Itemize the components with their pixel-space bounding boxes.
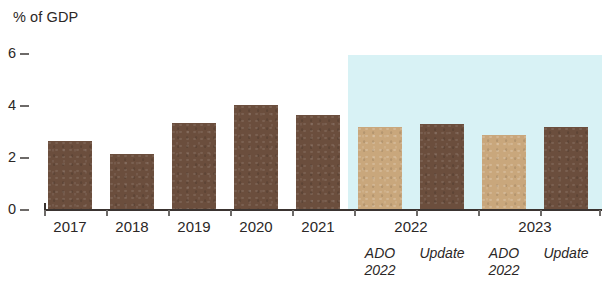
x-tick-5 [354,210,356,216]
sub-label-2023-ado-line2: 2022 [488,262,519,278]
x-tick-0 [44,210,46,216]
bar-2021 [296,115,340,210]
sub-label-2023-ado-line1: ADO [489,245,519,261]
x-tick-7 [478,210,480,216]
y-tick-2: 2 [8,149,29,165]
y-tick-0-label: 0 [8,201,16,217]
bar-2022-ado [358,127,402,210]
bar-2020 [234,105,278,210]
x-label-2023: 2023 [505,218,565,235]
x-label-2022: 2022 [381,218,441,235]
bar-2023-ado [482,135,526,210]
sub-label-2023-ado: ADO 2022 [476,245,532,279]
y-tick-2-dash [20,157,29,159]
sub-label-2022-update-line1: Update [419,245,464,261]
sub-label-2022-ado: ADO 2022 [352,245,408,279]
y-tick-0-dash [20,209,29,211]
y-tick-6: 6 [8,45,29,61]
x-tick-9 [599,210,601,216]
bar-2018 [110,154,154,210]
x-label-2019: 2019 [164,218,224,235]
x-label-2020: 2020 [226,218,286,235]
bar-2017 [48,141,92,210]
x-label-2017: 2017 [40,218,100,235]
bar-2022-update [420,124,464,210]
x-tick-3 [230,210,232,216]
y-axis-title: % of GDP [13,9,78,25]
x-tick-8 [540,210,542,216]
sub-label-2023-update-line1: Update [543,245,588,261]
sub-label-2023-update: Update [536,245,596,262]
y-tick-4: 4 [8,97,29,113]
plot-area: % of GDP 6 4 2 0 [0,0,602,284]
y-tick-4-label: 4 [8,97,16,113]
bar-2023-update [544,127,588,210]
y-tick-6-dash [20,53,29,55]
x-label-2018: 2018 [102,218,162,235]
x-tick-4 [292,210,294,216]
y-tick-4-dash [20,105,29,107]
x-axis-line [44,209,602,211]
x-tick-6 [416,210,418,216]
sub-label-2022-ado-line2: 2022 [364,262,395,278]
x-axis-origin-cap [44,203,46,210]
bar-2019 [172,123,216,210]
y-tick-0: 0 [8,201,29,217]
sub-label-2022-update: Update [412,245,472,262]
x-tick-2 [168,210,170,216]
y-tick-2-label: 2 [8,149,16,165]
x-label-2021: 2021 [288,218,348,235]
y-tick-6-label: 6 [8,45,16,61]
x-tick-1 [106,210,108,216]
sub-label-2022-ado-line1: ADO [365,245,395,261]
bar-chart: % of GDP 6 4 2 0 [0,0,602,284]
